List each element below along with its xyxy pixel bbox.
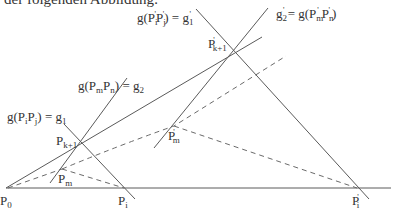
label-pi-prime: P'i — [352, 193, 360, 210]
label-g2: g(PmPn) = g2 — [78, 78, 144, 95]
label-g1-prime: g(Pi'Pj') = g1' — [137, 10, 193, 27]
label-g1: g(PiPj) = g1 — [7, 109, 67, 126]
label-pm-prime: P'm — [168, 128, 180, 145]
line-g1-prime — [196, 9, 369, 199]
line-g2 — [50, 78, 127, 183]
label-p0: P0 — [0, 193, 12, 210]
geometry-diagram: g(Pi'Pj') = g1' g2' = g(Pm'Pn') P'k+1 g(… — [0, 0, 393, 210]
label-g2-prime: g2' = g(Pm'Pn') — [276, 6, 336, 23]
label-pk1-prime: P'k+1 — [208, 36, 227, 53]
label-pm: Pm — [58, 171, 72, 188]
label-pk1: Pk+1 — [56, 133, 77, 150]
label-pi: Pi — [118, 193, 128, 210]
dashed-pm-prime-pi-prime — [174, 126, 357, 188]
